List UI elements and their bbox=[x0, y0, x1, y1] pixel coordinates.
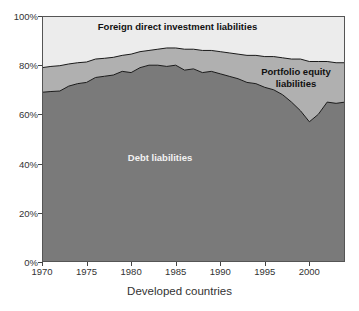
x-axis-tick-mark bbox=[220, 262, 221, 266]
x-axis-tick-mark bbox=[265, 262, 266, 266]
area-label-portfolio-equity: Portfolio equity liabilities bbox=[250, 66, 342, 89]
x-axis-tick-label: 1975 bbox=[76, 266, 97, 277]
x-axis-tick-mark bbox=[309, 262, 310, 266]
y-axis-tick-label: 80% bbox=[19, 60, 38, 71]
x-axis-tick-label: 1995 bbox=[254, 266, 275, 277]
x-axis-tick-label: 2000 bbox=[299, 266, 320, 277]
y-axis-tick-mark bbox=[38, 114, 42, 115]
y-axis-tick-mark bbox=[38, 213, 42, 214]
y-axis-tick-mark bbox=[38, 164, 42, 165]
x-axis-tick-label: 1970 bbox=[31, 266, 52, 277]
y-axis-tick-mark bbox=[38, 16, 42, 17]
y-axis-tick-label: 20% bbox=[19, 207, 38, 218]
stacked-area-chart: 0%20%40%60%80%100% Foreign direct invest… bbox=[0, 0, 359, 311]
y-axis: 0%20%40%60%80%100% bbox=[0, 0, 38, 311]
y-axis-tick-label: 100% bbox=[14, 11, 38, 22]
y-axis-tick-mark bbox=[38, 65, 42, 66]
x-axis-tick-mark bbox=[131, 262, 132, 266]
plot-area bbox=[42, 16, 345, 262]
x-axis-tick-label: 1985 bbox=[165, 266, 186, 277]
x-axis-tick-label: 1990 bbox=[210, 266, 231, 277]
x-axis-tick-mark bbox=[176, 262, 177, 266]
area-label-fdi: Foreign direct investment liabilities bbox=[70, 21, 285, 33]
x-axis-title: Developed countries bbox=[0, 285, 359, 297]
y-axis-tick-mark bbox=[38, 262, 42, 263]
y-axis-tick-label: 40% bbox=[19, 158, 38, 169]
y-axis-tick-label: 60% bbox=[19, 109, 38, 120]
x-axis-tick-mark bbox=[42, 262, 43, 266]
plot-svg bbox=[42, 16, 345, 262]
area-label-debt: Debt liabilities bbox=[120, 152, 200, 164]
x-axis-tick-label: 1980 bbox=[121, 266, 142, 277]
x-axis-tick-mark bbox=[87, 262, 88, 266]
